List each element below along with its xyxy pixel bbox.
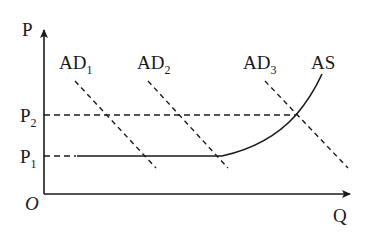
origin-label: O — [25, 193, 39, 214]
x-axis-label: Q — [333, 205, 347, 226]
ad3-label: AD3 — [243, 52, 276, 77]
p2-label: P2 — [20, 105, 37, 130]
ad2-curve — [148, 81, 228, 168]
ad1-curve — [75, 81, 156, 168]
as-label: AS — [311, 52, 335, 73]
ad1-label: AD1 — [59, 52, 92, 77]
p1-label: P1 — [20, 146, 37, 171]
ad3-curve — [265, 81, 348, 168]
y-axis-label: P — [22, 19, 33, 40]
ad2-label: AD2 — [137, 52, 170, 77]
ad-as-diagram: P Q O P2 P1 AD1 AD2 AD3 AS — [0, 0, 371, 234]
